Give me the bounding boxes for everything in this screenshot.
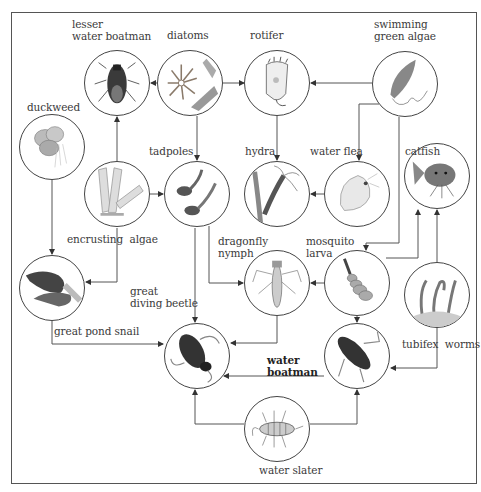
label-rotifer: rotifer — [250, 29, 283, 41]
label-encrusting-algae: encrusting algae — [67, 233, 158, 245]
great-diving-beetle-icon — [165, 324, 229, 388]
label-water-slater: water slater — [259, 464, 322, 476]
label-water-flea: water flea — [310, 145, 363, 157]
tadpoles-icon — [165, 162, 229, 226]
node-swimming-green-algae — [372, 51, 438, 117]
water-flea-icon — [325, 162, 389, 226]
label-swimming-green-algae: swimming green algae — [374, 18, 436, 42]
node-hydra — [244, 161, 310, 227]
label-tadpoles: tadpoles — [149, 145, 193, 157]
great-pond-snail-icon — [20, 256, 84, 320]
tubifex-worms-icon — [405, 263, 469, 327]
encrusting-algae-icon — [85, 162, 149, 226]
label-hydra: hydra — [245, 145, 275, 157]
label-tubifex-worms: tubifex worms — [402, 338, 480, 350]
node-great-diving-beetle — [164, 323, 230, 389]
water-boatman-icon — [325, 324, 389, 388]
label-great-pond-snail: great pond snail — [54, 325, 139, 337]
swimming-green-algae-icon — [373, 52, 437, 116]
node-water-boatman — [324, 323, 390, 389]
node-mosquito-larva — [324, 250, 390, 316]
label-mosquito-larva: mosquito larva — [306, 235, 354, 259]
label-lesser-water-boatman: lesser water boatman — [72, 18, 151, 42]
node-water-flea — [324, 161, 390, 227]
node-duckweed — [19, 114, 85, 180]
water-slater-icon — [245, 397, 309, 461]
lesser-water-boatman-icon — [85, 51, 149, 115]
node-tubifex-worms — [404, 262, 470, 328]
duckweed-icon — [20, 115, 84, 179]
label-dragonfly-nymph: dragonfly nymph — [218, 235, 268, 259]
node-encrusting-algae — [84, 161, 150, 227]
label-great-diving-beetle: great diving beetle — [130, 285, 198, 309]
label-water-boatman: water boatman — [267, 354, 318, 378]
hydra-icon — [245, 162, 309, 226]
mosquito-larva-icon — [325, 251, 389, 315]
node-water-slater — [244, 396, 310, 462]
dragonfly-nymph-icon — [245, 251, 309, 315]
label-catfish: catfish — [405, 145, 440, 157]
rotifer-icon — [245, 51, 309, 115]
node-diatoms — [157, 50, 223, 116]
diatoms-icon — [158, 51, 222, 115]
node-rotifer — [244, 50, 310, 116]
label-duckweed: duckweed — [27, 101, 80, 113]
node-dragonfly-nymph — [244, 250, 310, 316]
node-great-pond-snail — [19, 255, 85, 321]
node-tadpoles — [164, 161, 230, 227]
label-diatoms: diatoms — [167, 29, 209, 41]
node-lesser-water-boatman — [84, 50, 150, 116]
